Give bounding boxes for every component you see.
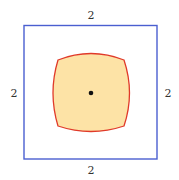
label-right: 2 <box>165 87 172 100</box>
diagram-canvas: 2 2 2 2 <box>0 0 179 180</box>
center-point <box>89 91 94 96</box>
label-top: 2 <box>88 9 95 22</box>
label-bottom: 2 <box>88 164 95 177</box>
label-left: 2 <box>11 87 18 100</box>
